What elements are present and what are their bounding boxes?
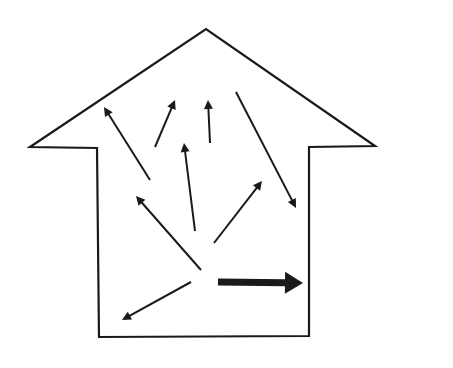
arrow-shaft [208,108,210,143]
arrow-down-left-icon [122,282,191,320]
arrow-head [181,143,190,152]
arrow-head [204,100,213,109]
arrow-up-slight-right-icon [155,100,176,147]
arrow-shaft [155,107,172,147]
arrow-down-right-icon [236,92,296,208]
arrow-shaft [129,282,191,316]
house-diagram [0,0,453,368]
arrow-up-icon [204,100,213,143]
thick-arrow-right-icon [218,272,303,294]
arrow-upper-left-icon [104,107,150,180]
arrow-up-center-icon [181,143,195,231]
house-outline [30,29,375,337]
arrow-up-right-icon [214,181,262,243]
arrow-shaft [108,114,150,180]
arrow-shaft [236,92,292,201]
arrow-shaft [214,187,257,243]
arrow-shaft [185,151,195,231]
